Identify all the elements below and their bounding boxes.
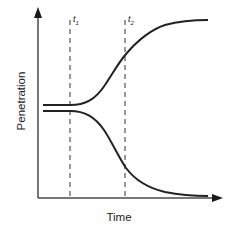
y-axis-label: Penetration — [15, 72, 27, 131]
x-axis-arrow-icon — [212, 194, 223, 202]
penetration-time-chart: t1 t2 Time Penetration — [0, 0, 239, 235]
x-axis-label: Time — [106, 211, 131, 223]
t1-label: t1 — [73, 14, 79, 26]
t2-label-subscript: 2 — [130, 20, 135, 26]
y-axis-arrow-icon — [34, 7, 42, 18]
t2-label: t2 — [128, 14, 135, 26]
t1-label-subscript: 1 — [76, 20, 79, 26]
